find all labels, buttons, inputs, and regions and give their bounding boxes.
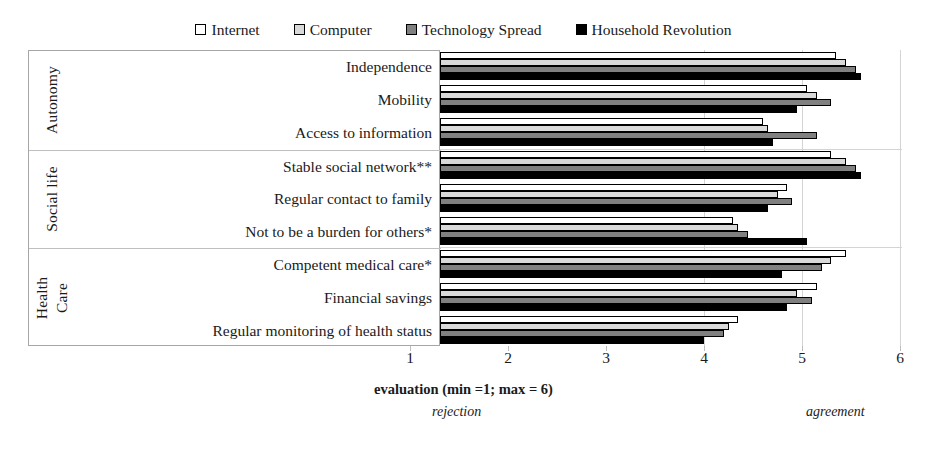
- bar-technology-spread[interactable]: [440, 264, 822, 271]
- x-axis-line: [440, 346, 902, 347]
- bar-computer[interactable]: [440, 224, 738, 231]
- group-title-line: Care: [53, 283, 71, 313]
- legend-label: Internet: [211, 22, 259, 37]
- bar-household-revolution[interactable]: [440, 238, 807, 245]
- bar-row: [440, 316, 902, 323]
- category-label: Competent medical care*: [75, 257, 441, 273]
- bar-computer[interactable]: [440, 257, 831, 264]
- bar-internet[interactable]: [440, 85, 807, 92]
- bar-household-revolution[interactable]: [440, 205, 768, 212]
- bar-household-revolution[interactable]: [440, 271, 782, 278]
- tick-label: 2: [488, 349, 528, 367]
- bar-internet[interactable]: [440, 184, 787, 191]
- series-swatch-internet: [195, 24, 206, 35]
- series-swatch-technology-spread: [406, 24, 417, 35]
- bar-computer[interactable]: [440, 191, 778, 198]
- bar-cluster: [440, 83, 902, 116]
- legend-label: Household Revolution: [592, 22, 732, 37]
- bar-technology-spread[interactable]: [440, 330, 724, 337]
- bar-technology-spread[interactable]: [440, 99, 831, 106]
- tick-label: 1: [390, 349, 430, 367]
- tick-label: 5: [782, 349, 822, 367]
- bar-household-revolution[interactable]: [440, 73, 861, 80]
- bar-computer[interactable]: [440, 158, 846, 165]
- bar-household-revolution[interactable]: [440, 172, 861, 179]
- bar-household-revolution[interactable]: [440, 304, 787, 311]
- legend-item-household-revolution[interactable]: Household Revolution: [576, 22, 732, 37]
- group-title-line: Social life: [43, 167, 61, 232]
- bar-computer[interactable]: [440, 290, 797, 297]
- bar-computer[interactable]: [440, 92, 817, 99]
- group-separator: [440, 247, 902, 248]
- bar-computer[interactable]: [440, 125, 768, 132]
- bar-internet[interactable]: [440, 316, 738, 323]
- bar-row: [440, 198, 902, 205]
- series-swatch-household-revolution: [576, 24, 587, 35]
- bar-row: [440, 172, 902, 179]
- bar-technology-spread[interactable]: [440, 66, 856, 73]
- tick-label: 6: [880, 349, 920, 367]
- bar-row: [440, 66, 902, 73]
- bar-row: [440, 92, 902, 99]
- x-axis-label: evaluation (min =1; max = 6): [0, 381, 927, 398]
- bar-row: [440, 283, 902, 290]
- tick-label: 4: [684, 349, 724, 367]
- bar-row: [440, 290, 902, 297]
- category-group-social-life: Social lifeStable social network**Regula…: [29, 150, 441, 249]
- bar-row: [440, 217, 902, 224]
- bar-household-revolution[interactable]: [440, 106, 797, 113]
- bar-internet[interactable]: [440, 52, 836, 59]
- bar-internet[interactable]: [440, 217, 733, 224]
- legend-item-internet[interactable]: Internet: [195, 22, 259, 37]
- bar-internet[interactable]: [440, 118, 763, 125]
- bar-household-revolution[interactable]: [440, 337, 704, 344]
- bar-technology-spread[interactable]: [440, 132, 817, 139]
- bar-row: [440, 330, 902, 337]
- bar-row: [440, 125, 902, 132]
- bar-row: [440, 224, 902, 231]
- bar-technology-spread[interactable]: [440, 231, 748, 238]
- bar-cluster: [440, 149, 902, 182]
- category-label-panel: AutonomyIndependenceMobilityAccess to in…: [28, 50, 440, 346]
- category-label: Financial savings: [75, 290, 441, 306]
- bar-row: [440, 158, 902, 165]
- legend-label: Technology Spread: [422, 22, 542, 37]
- category-group-autonomy: AutonomyIndependenceMobilityAccess to in…: [29, 51, 441, 150]
- bar-internet[interactable]: [440, 283, 817, 290]
- group-separator: [440, 149, 902, 150]
- category-label: Stable social network**: [75, 159, 441, 175]
- bar-technology-spread[interactable]: [440, 297, 812, 304]
- legend-item-technology-spread[interactable]: Technology Spread: [406, 22, 542, 37]
- group-title-line: Health: [33, 277, 51, 320]
- bar-household-revolution[interactable]: [440, 139, 773, 146]
- bar-row: [440, 106, 902, 113]
- plot-area: [440, 50, 902, 346]
- category-label: Independence: [75, 59, 441, 75]
- bar-row: [440, 323, 902, 330]
- bar-cluster: [440, 116, 902, 149]
- bar-technology-spread[interactable]: [440, 165, 856, 172]
- bar-row: [440, 297, 902, 304]
- bar-computer[interactable]: [440, 59, 846, 66]
- bar-cluster: [440, 280, 902, 313]
- category-label: Not to be a burden for others*: [75, 224, 441, 240]
- legend-item-computer[interactable]: Computer: [294, 22, 372, 37]
- bar-row: [440, 139, 902, 146]
- bar-technology-spread[interactable]: [440, 198, 792, 205]
- legend-label: Computer: [310, 22, 372, 37]
- tick-label: 3: [586, 349, 626, 367]
- bar-internet[interactable]: [440, 250, 846, 257]
- bar-cluster: [440, 214, 902, 247]
- bar-computer[interactable]: [440, 323, 729, 330]
- group-title: Autonomy: [29, 51, 75, 150]
- bar-row: [440, 99, 902, 106]
- bar-internet[interactable]: [440, 151, 831, 158]
- group-title: Social life: [29, 151, 75, 249]
- bar-row: [440, 184, 902, 191]
- group-rows: IndependenceMobilityAccess to informatio…: [75, 51, 441, 150]
- bar-cluster: [440, 247, 902, 280]
- category-label: Access to information: [75, 125, 441, 141]
- bar-row: [440, 238, 902, 245]
- bar-cluster: [440, 313, 902, 346]
- category-label: Regular monitoring of health status: [75, 323, 441, 339]
